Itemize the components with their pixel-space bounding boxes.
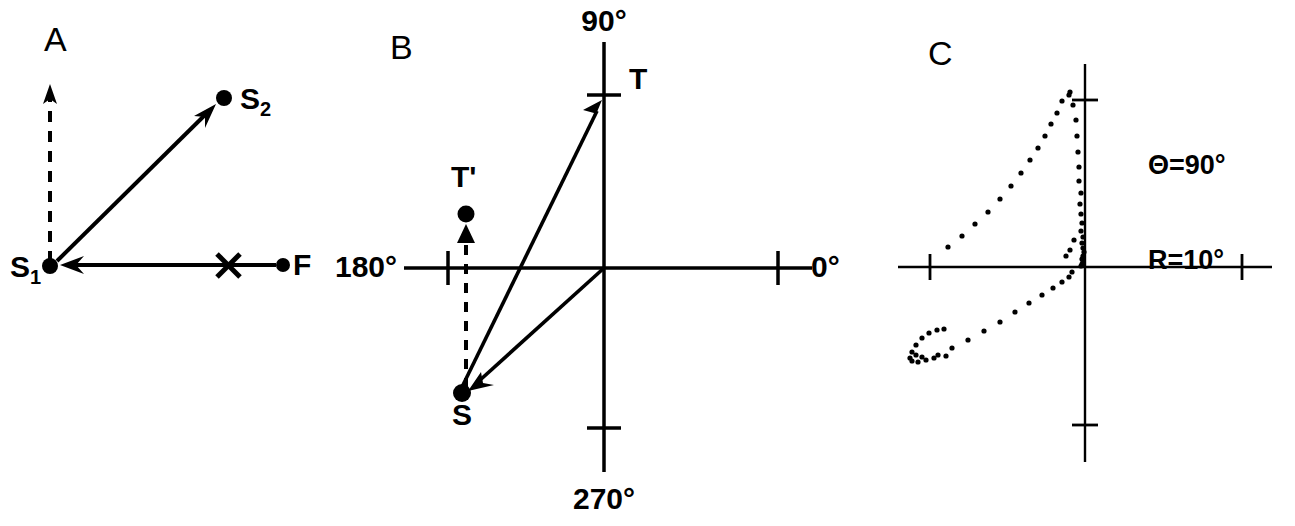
plot-annotations: Θ=90° R=10° [1148,86,1226,341]
scatter-point [1048,121,1053,126]
point-label-tprime: T' [451,162,476,192]
axis-label-180: 180° [335,252,397,282]
axis-label-0: 0° [811,252,840,282]
scatter-point [1039,292,1044,297]
scatter-point [926,330,931,335]
origin-to-s-arrowhead [468,372,494,391]
point-label-s1: S1 [10,252,41,287]
panel-a: A S1 [0,0,345,526]
origin-to-s-arrow [479,268,604,381]
scatter-point [949,345,954,350]
scatter-point [1050,285,1055,290]
scatter-point [1026,300,1031,305]
scatter-point [1079,220,1084,225]
point-f-marker [276,258,290,272]
panel-b: B 90° 270° 0° 180° T [345,0,860,526]
scatter-point [1059,98,1064,103]
scatter-point [1027,157,1032,162]
s-to-t-arrow [462,111,597,387]
scatter-point [1008,183,1013,188]
scatter-point [997,319,1002,324]
scatter-point [965,337,970,342]
scatter-point [1067,89,1072,94]
point-s1-marker [42,258,58,274]
scatter-point [913,342,918,347]
scatter-point [1080,234,1085,239]
scatter-point [1079,240,1084,245]
scatter-point [915,359,920,364]
figure-root: A S1 [0,0,1295,526]
scatter-point [1073,117,1078,122]
scatter-point [907,355,912,360]
point-tprime-marker [458,206,475,223]
theta-annotation: Θ=90° [1148,150,1226,182]
scatter-point [941,326,946,331]
scatter-point [1080,245,1085,250]
scatter-point [943,353,948,358]
scatter-point [934,327,939,332]
point-label-s: S [452,400,472,430]
axis-label-90: 90° [581,6,626,36]
scatter-point [931,355,936,360]
scatter-point [1035,145,1040,150]
panel-c: C Θ=90° R=10° [860,0,1295,526]
scatter-point [1076,164,1081,169]
scatter-point [981,328,986,333]
scatter-point [919,335,924,340]
scatter-point [972,221,977,226]
scatter-point [1067,247,1072,252]
scatter-point [913,352,918,357]
scatter-point [1059,279,1064,284]
axis-label-270: 270° [573,484,635,514]
panel-c-scatter-plot [860,0,1295,526]
scatter-point [1076,178,1081,183]
scatter-point [1074,133,1079,138]
scatter-point [1012,309,1017,314]
tprime-triangle-marker [457,224,475,243]
point-label-s2: S2 [240,84,271,119]
scatter-point [1078,228,1083,233]
scatter-point [985,209,990,214]
scatter-point [1078,211,1083,216]
scatter-point [1054,110,1059,115]
scatter-point [959,233,964,238]
scatter-point [1077,201,1082,206]
scatter-point [1063,253,1068,258]
c-data-points [907,89,1086,364]
scatter-point [1066,274,1071,279]
r-annotation: R=10° [1148,245,1226,277]
scatter-point [1071,237,1076,242]
scatter-point [997,196,1002,201]
panel-b-graphic [345,0,860,526]
s1-to-s2-arrow [57,111,209,261]
scatter-point [1069,269,1074,274]
point-label-f: F [293,250,311,280]
scatter-point [1070,102,1075,107]
scatter-point [1018,170,1023,175]
scatter-point [919,354,924,359]
scatter-point [945,244,950,249]
point-label-t: T [629,64,647,94]
scatter-point [1042,133,1047,138]
scatter-point [1078,190,1083,195]
scatter-point [1075,149,1080,154]
point-s2-marker [216,90,232,106]
